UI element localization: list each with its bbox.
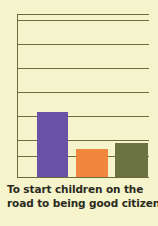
bar-series-3	[115, 143, 148, 177]
bar-chart-figure: To start children on the road to being g…	[0, 0, 158, 226]
x-axis-baseline	[17, 177, 149, 178]
bar-group	[0, 0, 158, 177]
bar-series-1	[37, 112, 68, 177]
bar-series-2	[76, 149, 108, 177]
caption-line-2: road to being good citizens	[7, 197, 151, 211]
chart-caption: To start children on the road to being g…	[0, 183, 158, 210]
plot-area	[0, 0, 158, 182]
caption-line-1: To start children on the	[7, 183, 151, 197]
